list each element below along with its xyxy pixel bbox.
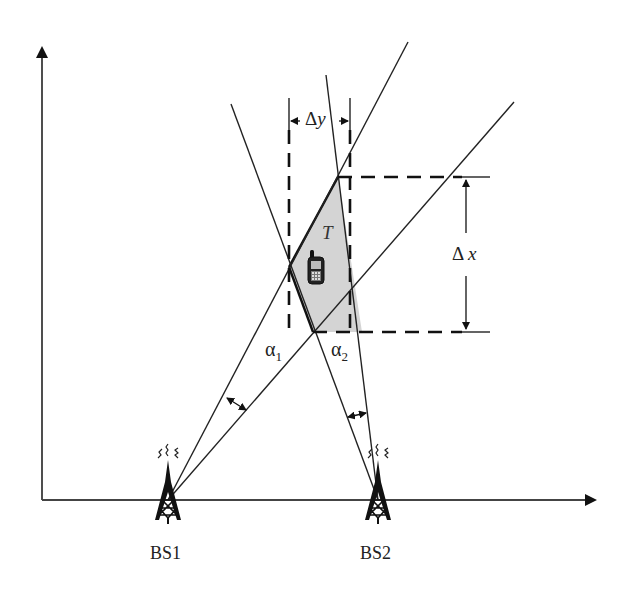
alpha1-arc-arrow [227, 398, 246, 410]
bs1-label: BS1 [150, 543, 181, 564]
target-label: T [322, 222, 333, 244]
delta-x-label: Δ x [452, 243, 476, 265]
bs2-label: BS2 [360, 543, 391, 564]
delta-y-label: Δy [305, 108, 326, 130]
bs2-tower-icon [365, 444, 391, 524]
bs1-bearing-lower [168, 102, 514, 500]
alpha2-label: α2 [331, 338, 348, 365]
alpha2-arc-arrow [348, 413, 366, 417]
diagram-canvas [0, 0, 622, 598]
alpha1-label: α1 [265, 338, 282, 365]
